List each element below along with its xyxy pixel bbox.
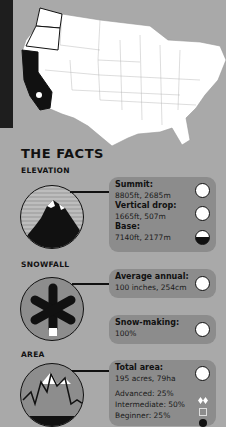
oregon-state [26,26,60,50]
area-label: AREA [21,350,45,359]
snow-depth-icon [195,276,210,291]
beginner-circle-icon [199,419,207,427]
summit-icon [195,183,210,198]
page-title: THE FACTS [21,146,104,161]
beginner-percent: Beginner: 25% [115,410,210,421]
snowflake-icon [20,277,84,341]
elevation-facts-box: Summit: 8805ft, 2685m Vertical drop: 166… [109,177,216,252]
area-facts-box: Total area: 195 acres, 79ha Advanced: 25… [109,360,216,426]
vertical-drop-icon [195,206,210,221]
base-label: Base: [115,222,210,232]
total-area-icon [195,366,210,381]
area-mountain-icon [20,363,84,427]
elevation-mountain-icon [20,185,84,249]
advanced-percent: Advanced: 25% [115,388,210,399]
snowfall-label: SNOWFALL [21,260,69,269]
elevation-connector [70,191,110,193]
us-map [0,0,226,150]
area-connector [72,370,110,372]
washington-state [36,8,62,28]
elevation-label: ELEVATION [21,166,70,175]
resort-location-icon [36,92,42,98]
snowmaking-icon [195,322,210,337]
intermediate-percent: Intermediate: 50% [115,399,210,410]
intermediate-square-icon [199,408,207,416]
snowfall-connector [72,283,110,285]
snowmaking-box: Snow-making: 100% [109,315,216,344]
base-icon [195,230,210,245]
average-annual-box: Average annual: 100 inches, 254cm [109,269,216,298]
